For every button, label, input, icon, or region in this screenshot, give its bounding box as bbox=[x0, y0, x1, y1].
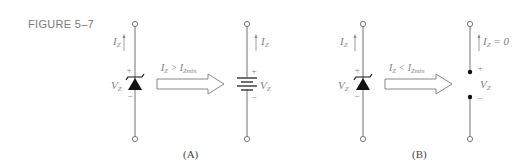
transition-arrow-a-icon bbox=[157, 74, 224, 94]
transition-arrow-b-icon bbox=[385, 74, 452, 94]
minus-a1: − bbox=[127, 91, 133, 101]
iz-label-a1: IZ bbox=[112, 35, 121, 49]
minus-a2: − bbox=[251, 92, 257, 102]
vz-label-b2: VZ bbox=[480, 78, 491, 92]
caption-a: (A) bbox=[183, 148, 199, 161]
iz-label-b2: IZ = 0 bbox=[482, 35, 510, 49]
vz-label-b1: VZ bbox=[338, 79, 349, 93]
plus-a2: + bbox=[251, 66, 257, 76]
minus-b2: − bbox=[477, 93, 483, 103]
battery-icon bbox=[237, 21, 258, 141]
iz-label-b1: IZ bbox=[339, 35, 348, 49]
iz-label-a2: IZ bbox=[260, 35, 269, 49]
zener-diode-a bbox=[123, 21, 145, 141]
caption-b: (B) bbox=[412, 148, 427, 161]
vz-label-a1: VZ bbox=[111, 79, 122, 93]
condition-a: IZ > IZmin bbox=[160, 62, 196, 74]
condition-b: IZ < IZmin bbox=[388, 62, 424, 74]
plus-a1: + bbox=[126, 65, 132, 75]
zener-diode-b bbox=[354, 21, 373, 141]
plus-b1: + bbox=[354, 65, 360, 75]
vz-label-a2: VZ bbox=[260, 79, 271, 93]
plus-b2: + bbox=[477, 63, 483, 73]
minus-b1: − bbox=[354, 91, 360, 101]
open-circuit-icon bbox=[467, 21, 480, 141]
